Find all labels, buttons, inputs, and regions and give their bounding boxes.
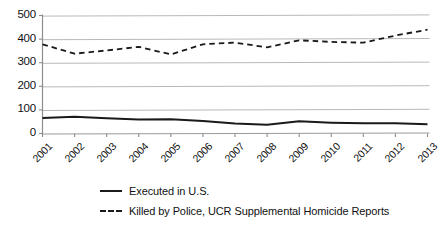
legend-line-dashed-icon — [100, 206, 122, 216]
legend-item-executed: Executed in U.S. — [100, 182, 430, 199]
series-line-executed — [43, 117, 428, 125]
y-axis-tick-label: 300 — [2, 55, 36, 67]
gridline — [43, 109, 430, 110]
gridline — [43, 39, 430, 40]
gridline — [43, 62, 430, 63]
series-line-killed-by-police — [43, 30, 428, 55]
line-chart: 5004003002001000 20012002200320042005200… — [0, 0, 446, 230]
y-axis-tick-label: 500 — [2, 8, 36, 20]
y-axis-tick-label: 100 — [2, 102, 36, 114]
y-axis-tick-label: 400 — [2, 32, 36, 44]
legend-item-killed-by-police: Killed by Police, UCR Supplemental Homic… — [100, 202, 430, 219]
gridline — [43, 15, 430, 16]
y-axis-tick-label: 200 — [2, 79, 36, 91]
legend-item-label: Executed in U.S. — [129, 185, 209, 197]
chart-legend: Executed in U.S. Killed by Police, UCR S… — [100, 182, 430, 222]
gridline — [43, 86, 430, 87]
x-axis-line — [43, 133, 430, 134]
legend-line-solid-icon — [100, 186, 122, 196]
y-axis-tick-label: 0 — [2, 126, 36, 138]
legend-item-label: Killed by Police, UCR Supplemental Homic… — [129, 205, 389, 217]
